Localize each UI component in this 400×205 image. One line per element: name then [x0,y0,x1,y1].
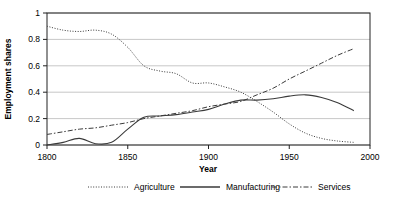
series-line-manufacturing [47,95,354,145]
series-line-agriculture [47,26,354,142]
legend-label-agriculture: Agriculture [134,182,175,192]
y-axis-ticks: 00.20.40.60.81 [28,8,47,150]
legend-label-services: Services [318,182,351,192]
plot-area-border [47,13,370,145]
y-tick-label-1: 0.2 [28,114,40,124]
x-tick-label-1: 1850 [118,152,137,162]
series-line-services [47,49,354,135]
x-tick-label-2: 1900 [199,152,218,162]
y-tick-label-2: 0.4 [28,87,40,97]
y-tick-label-5: 1 [35,8,40,18]
y-tick-label-0: 0 [35,140,40,150]
y-tick-label-4: 0.8 [28,34,40,44]
employment-shares-chart: 00.20.40.60.81 18001850190019502000 Empl… [0,0,400,205]
y-axis-title: Employment shares [3,38,13,119]
x-tick-label-0: 1800 [38,152,57,162]
y-tick-label-3: 0.6 [28,61,40,71]
chart-legend: AgricultureManufacturingServices [88,182,351,192]
x-tick-label-4: 2000 [361,152,380,162]
x-tick-label-3: 1950 [280,152,299,162]
data-series-group [47,26,354,145]
chart-svg: 00.20.40.60.81 18001850190019502000 Empl… [0,0,400,205]
x-axis-ticks: 18001850190019502000 [38,145,380,162]
x-axis-title: Year [199,164,218,174]
gridlines [47,13,370,145]
